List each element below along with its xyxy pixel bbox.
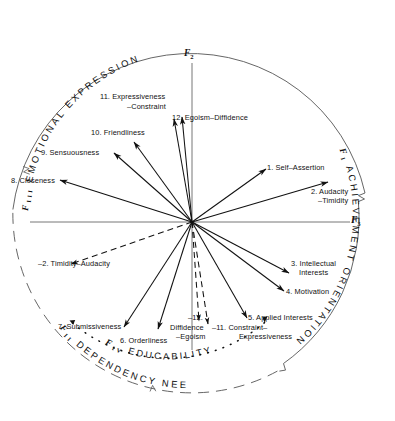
vector-11-expressiveness-constraint <box>174 119 192 222</box>
label-vector-neg12-line3: –Egoism <box>176 332 205 341</box>
label-vector-7: 7. Submissiveness <box>58 322 121 331</box>
axis-label-f3: F3 <box>351 215 361 227</box>
vector-6-orderliness <box>158 222 192 329</box>
vector-neg12-diffidence-egoism <box>192 222 199 321</box>
label-vector-3-line1: 3. Intellectual <box>291 259 336 268</box>
label-vector-neg12-line1: –12. <box>188 313 203 322</box>
vector-group <box>60 117 328 329</box>
label-vector-2-line1: 2. Audacity <box>311 187 348 196</box>
label-vector-5: 5. Applied Interests <box>248 313 313 322</box>
label-vector-1: 1. Self–Assertion <box>267 163 325 172</box>
label-vector-4: 4. Motivation <box>286 287 329 296</box>
axis-f2-subscript: 2 <box>190 53 193 60</box>
vector-12-egoism-diffidence <box>182 117 192 222</box>
vector-neg2-timidity-audacity <box>71 222 192 264</box>
vector-10-friendliness <box>134 142 192 222</box>
label-vector-12: 12. Egoism–Diffidence <box>172 113 248 122</box>
label-vector-8: 8. Closeness <box>11 176 55 185</box>
label-vector-10: 10. Friendliness <box>91 128 145 137</box>
vector-1-self-assertion <box>192 169 266 222</box>
vector-7-submissiveness <box>124 222 192 327</box>
label-vector-2-line2: –Timidity <box>318 196 348 205</box>
axis-f3-subscript: 3 <box>357 220 360 227</box>
label-vector-neg12-line2: Diffidence <box>170 323 204 332</box>
vector-8-closeness <box>60 180 192 222</box>
label-vector-3-line2: Interests <box>299 268 328 277</box>
label-vector-11-line2: –Constraint <box>127 102 166 111</box>
label-vector-neg11-line2: Expressiveness <box>239 332 292 341</box>
diagram-canvas: FIII EMOTIONAL EXPRESSION FI ACHIEVEMENT… <box>0 0 395 421</box>
label-vector-neg2: –2. Timidity–Audacity <box>38 259 110 268</box>
vector-neg11-constraint-expressiveness <box>192 222 208 324</box>
label-vector-neg11-line1: –11. Constraint– <box>212 323 267 332</box>
factor-vector-diagram: FIII EMOTIONAL EXPRESSION FI ACHIEVEMENT… <box>0 0 395 421</box>
label-vector-11-line1: 11. Expressiveness <box>100 92 165 101</box>
axis-label-f2: F2 <box>184 48 194 60</box>
label-vector-6: 6. Orderliness <box>120 336 167 345</box>
vector-2-audacity-timidity <box>192 182 328 222</box>
vector-9-sensuousness <box>114 153 192 222</box>
label-vector-9: 9. Sensuousness <box>41 148 99 157</box>
vector-4-motivation <box>192 222 284 291</box>
